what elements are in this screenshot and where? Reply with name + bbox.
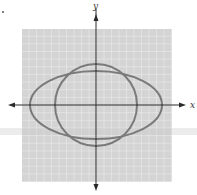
y-axis-top-arrow-icon [94, 14, 99, 21]
x-axis-left-arrow-icon [8, 103, 15, 108]
problem-marker-dot [2, 11, 4, 13]
y-axis-bottom-arrow-icon [94, 184, 99, 191]
x-axis-right-arrow-icon [179, 103, 186, 108]
y-axis-label: y [92, 1, 99, 11]
x-axis-label: x [190, 100, 195, 110]
coordinate-graph: x y [0, 0, 197, 195]
scan-smudge [0, 128, 197, 135]
